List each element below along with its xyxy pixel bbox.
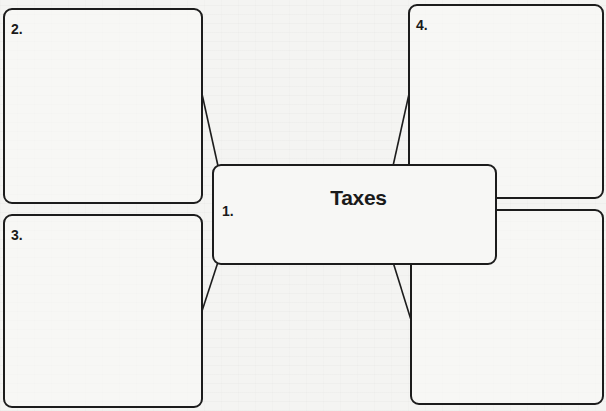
box-3: 3. bbox=[3, 214, 203, 408]
connector-1-3 bbox=[202, 262, 218, 311]
box-1-number: 1. bbox=[222, 203, 234, 219]
box-2: 2. bbox=[3, 8, 203, 204]
box-3-number: 3. bbox=[11, 227, 23, 243]
box-2-number: 2. bbox=[11, 21, 23, 37]
connector-1-5 bbox=[393, 262, 411, 320]
connector-1-2 bbox=[202, 94, 218, 166]
box-4-number: 4. bbox=[416, 17, 428, 33]
box-1-center: Taxes 1. bbox=[212, 164, 497, 265]
connector-1-4 bbox=[393, 94, 409, 166]
center-title: Taxes bbox=[214, 186, 495, 210]
